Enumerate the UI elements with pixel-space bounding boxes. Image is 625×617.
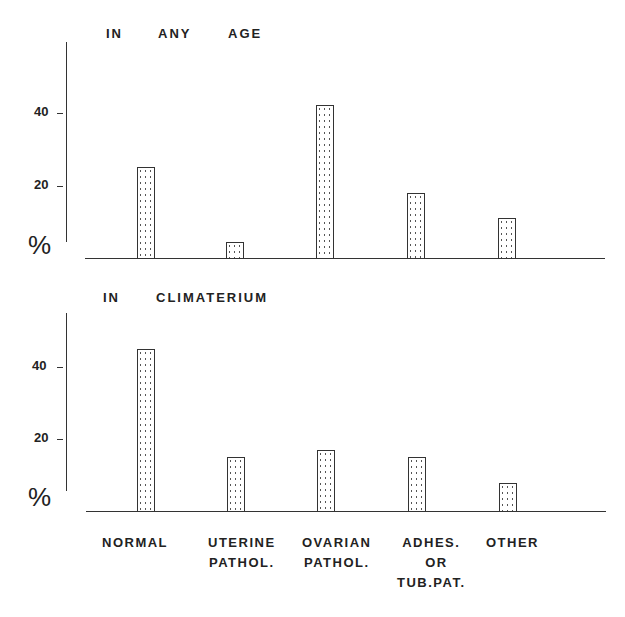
category-label-normal: NORMAL (102, 533, 168, 553)
chart-climaterium: IN CLIMATERIUM 40 20 % NORMAL UTERINE PA… (0, 0, 625, 617)
y-tick-20 (57, 439, 63, 440)
bar-ovarian-pathol (317, 450, 335, 512)
y-axis (66, 313, 67, 491)
category-label-ovarian: OVARIAN PATHOL. (302, 533, 371, 573)
y-axis-percent-label: % (28, 482, 51, 513)
bar-other (499, 483, 517, 512)
y-tick-label-40: 40 (32, 358, 46, 373)
category-label-uterine: UTERINE PATHOL. (208, 533, 276, 573)
y-tick-40 (57, 367, 63, 368)
bar-normal (137, 349, 155, 512)
y-tick-label-20: 20 (34, 430, 48, 445)
bar-adhes-tub-pat (408, 457, 426, 512)
category-label-other: OTHER (486, 533, 539, 553)
baseline (86, 511, 606, 512)
bar-uterine-pathol (227, 457, 245, 512)
category-label-adhes: ADHES. OR TUB.PAT. (397, 533, 466, 593)
chart-title-word: IN (103, 290, 120, 305)
chart-title-word: CLIMATERIUM (156, 290, 268, 305)
